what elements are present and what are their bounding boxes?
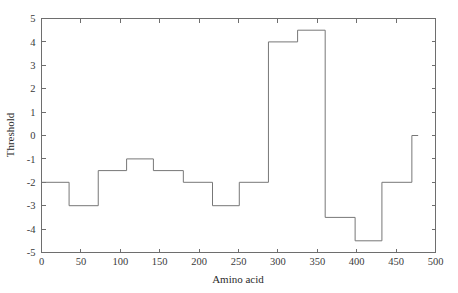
x-tick-label: 400	[349, 256, 365, 267]
threshold-series-line	[42, 30, 419, 241]
threshold-plot: 050100150200250300350400450500 -5-4-3-2-…	[0, 0, 458, 293]
x-tick-label: 500	[428, 256, 444, 267]
x-tick-label: 150	[152, 256, 168, 267]
y-tick-label: 3	[30, 60, 35, 71]
y-tick-label: -5	[27, 247, 36, 258]
chart-container: 050100150200250300350400450500 -5-4-3-2-…	[0, 0, 458, 293]
y-tick-label: -4	[27, 224, 36, 235]
x-axis-tick-labels: 050100150200250300350400450500	[39, 256, 444, 267]
y-axis-tick-labels: -5-4-3-2-1012345	[27, 13, 37, 258]
y-tick-label: 0	[30, 130, 35, 141]
y-axis-title: Threshold	[4, 112, 16, 157]
x-axis-ticks	[42, 19, 436, 253]
plot-frame	[42, 19, 436, 253]
y-tick-label: -3	[27, 200, 36, 211]
y-tick-label: 4	[30, 37, 36, 48]
x-axis-title: Amino acid	[212, 273, 264, 285]
x-tick-label: 200	[191, 256, 207, 267]
x-tick-label: 450	[388, 256, 404, 267]
y-tick-label: -1	[27, 154, 36, 165]
x-tick-label: 350	[309, 256, 325, 267]
y-tick-label: 5	[30, 13, 35, 24]
y-tick-label: 2	[30, 83, 35, 94]
y-axis-ticks	[42, 19, 436, 253]
x-tick-label: 100	[112, 256, 128, 267]
x-tick-label: 250	[231, 256, 247, 267]
x-tick-label: 300	[270, 256, 286, 267]
y-tick-label: -2	[27, 177, 36, 188]
y-tick-label: 1	[30, 107, 35, 118]
x-tick-label: 0	[39, 256, 44, 267]
x-tick-label: 50	[76, 256, 87, 267]
